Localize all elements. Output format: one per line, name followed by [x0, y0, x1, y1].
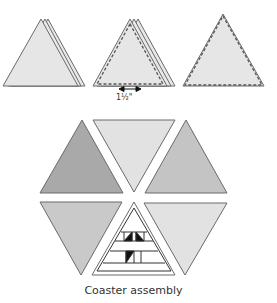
measurement-arrow: [119, 87, 141, 92]
diagram-caption: Coaster assembly: [0, 284, 267, 297]
coaster-diagram: [0, 0, 277, 303]
step3-stitched-triangle: [183, 14, 264, 86]
step1-stacked-triangles: [3, 19, 85, 86]
step2-stitched-triangles: [93, 19, 175, 86]
measurement-label: 1½": [116, 93, 133, 102]
